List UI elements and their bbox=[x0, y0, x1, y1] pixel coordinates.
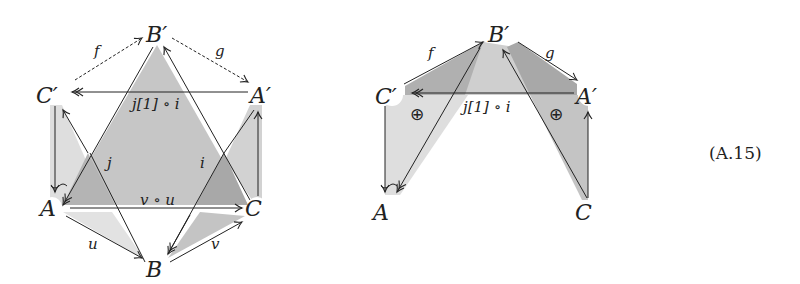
diagram-canvas: B′ C′ A′ A C B f g j[1] ∘ i j i v ∘ u u … bbox=[0, 0, 800, 284]
node-b-prime: B′ bbox=[145, 22, 167, 47]
label-j1-circ-i: j[1] ∘ i bbox=[129, 95, 180, 113]
node-b-prime-right: B′ bbox=[487, 22, 509, 47]
edge-f bbox=[75, 38, 142, 80]
label-j1-circ-i-right: j[1] ∘ i bbox=[460, 98, 511, 116]
fill-left-light bbox=[385, 95, 468, 195]
label-i: i bbox=[200, 154, 205, 172]
label-g: g bbox=[215, 42, 225, 60]
left-diagram: B′ C′ A′ A C B f g j[1] ∘ i j i v ∘ u u … bbox=[36, 22, 274, 282]
label-u: u bbox=[88, 235, 98, 253]
node-c-right: C bbox=[575, 200, 592, 225]
edge-g bbox=[172, 38, 248, 82]
node-c: C bbox=[245, 196, 262, 221]
node-b: B bbox=[145, 257, 162, 282]
node-a-prime: A′ bbox=[248, 83, 271, 108]
node-a-prime-right: A′ bbox=[574, 84, 597, 109]
node-c-prime: C′ bbox=[36, 83, 58, 108]
oplus-right: ⊕ bbox=[549, 104, 563, 124]
label-f: f bbox=[93, 42, 102, 60]
node-a-right: A bbox=[371, 200, 389, 225]
label-g-right: g bbox=[545, 44, 555, 62]
node-c-prime-right: C′ bbox=[375, 84, 397, 109]
fill-bottom-right bbox=[168, 212, 245, 258]
node-a: A bbox=[38, 196, 56, 221]
equation-number: (A.15) bbox=[709, 143, 762, 163]
label-f-right: f bbox=[427, 44, 436, 62]
label-v: v bbox=[211, 235, 220, 253]
right-diagram: ⊕ ⊕ B′ C′ A′ A C f g j[1] ∘ i bbox=[371, 22, 600, 225]
oplus-left: ⊕ bbox=[410, 104, 424, 124]
label-v-circ-u: v ∘ u bbox=[140, 191, 175, 209]
